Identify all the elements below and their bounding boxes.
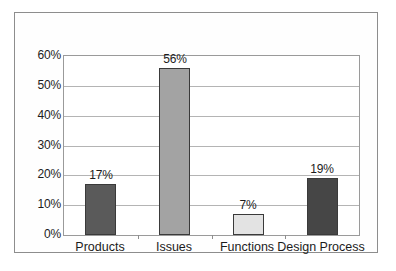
bar-value-label: 17% bbox=[71, 169, 131, 181]
x-axis-tick bbox=[138, 235, 139, 239]
bar-value-label: 7% bbox=[218, 199, 278, 211]
y-axis-tick-labels: 0%10%20%30%40%50%60% bbox=[15, 55, 61, 236]
bar bbox=[159, 68, 190, 235]
x-axis-tick bbox=[285, 235, 286, 239]
bar-value-label: 56% bbox=[145, 53, 205, 65]
y-axis-tick-label: 30% bbox=[17, 139, 61, 151]
gridline bbox=[64, 146, 359, 147]
x-axis-category-labels: ProductsIssuesFunctionsDesign Process bbox=[63, 241, 360, 261]
y-axis-tick-label: 0% bbox=[17, 228, 61, 240]
bar bbox=[233, 214, 264, 235]
y-axis-tick-label: 10% bbox=[17, 198, 61, 210]
chart-screenshot: 0%10%20%30%40%50%60% 17%56%7%19% Product… bbox=[0, 0, 396, 271]
y-axis-tick-label: 60% bbox=[17, 49, 61, 61]
bar bbox=[307, 178, 338, 235]
gridline bbox=[64, 86, 359, 87]
y-axis-tick-label: 20% bbox=[17, 168, 61, 180]
y-axis-tick-label: 50% bbox=[17, 79, 61, 91]
bar-value-label: 19% bbox=[292, 163, 352, 175]
x-axis-tick bbox=[212, 235, 213, 239]
x-axis-category-label: Design Process bbox=[277, 241, 365, 254]
x-axis-category-label: Functions bbox=[220, 241, 274, 254]
plot-area: 17%56%7%19% bbox=[63, 55, 360, 236]
y-axis-tick-label: 40% bbox=[17, 109, 61, 121]
bar bbox=[85, 184, 116, 235]
gridline bbox=[64, 116, 359, 117]
x-axis-category-label: Issues bbox=[156, 241, 192, 254]
x-axis-category-label: Products bbox=[75, 241, 124, 254]
figure-outer-frame: 0%10%20%30%40%50%60% 17%56%7%19% Product… bbox=[14, 12, 378, 253]
